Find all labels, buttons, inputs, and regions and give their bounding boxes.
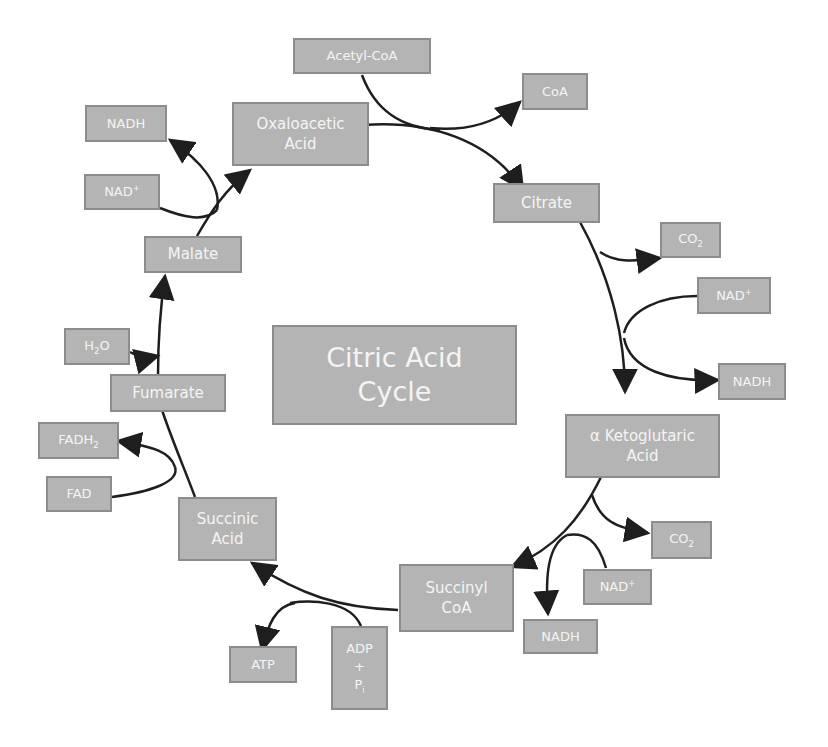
node-succinyl-coa: Succinyl CoA: [399, 564, 514, 632]
molecule-label: CO2: [669, 530, 694, 550]
arrow-nad-in-2: [567, 534, 606, 568]
arrow-adp-in: [290, 602, 361, 626]
arrow-acetylcoa-in: [362, 75, 440, 130]
arrow-succinylCoA-to-succinic: [252, 563, 398, 610]
molecule-label: FADH2: [58, 431, 98, 451]
molecule-fad: FAD: [46, 476, 112, 512]
formula-base: O: [99, 338, 109, 353]
molecule-label: NAD+: [104, 183, 140, 201]
molecule-acetyl-coa: Acetyl-CoA: [293, 38, 431, 74]
node-label: CoA: [442, 598, 472, 618]
formula-subscript: 2: [697, 239, 702, 249]
formula-base: NAD: [600, 579, 629, 594]
arrow-h2o-in: [130, 352, 158, 357]
arrow-atp-out: [262, 603, 295, 650]
node-label: Acid: [212, 529, 244, 549]
arrow-co2-out-1: [600, 252, 660, 260]
formula-base: NAD: [716, 288, 745, 303]
citric-acid-cycle-diagram: Citric Acid Cycle Oxaloacetic Acid Citra…: [0, 0, 828, 747]
molecule-label: +: [354, 658, 365, 676]
molecule-h2o: H2O: [64, 328, 130, 365]
node-label: Malate: [168, 244, 219, 264]
formula-superscript: +: [628, 578, 635, 588]
molecule-co2-2: CO2: [651, 521, 712, 559]
node-alpha-ketoglutaric-acid: α Ketoglutaric Acid: [565, 414, 720, 478]
formula-base: CO: [669, 531, 688, 546]
molecule-label: ATP: [251, 656, 275, 674]
molecule-label: CO2: [678, 230, 703, 250]
node-fumarate: Fumarate: [110, 374, 226, 412]
molecule-label: FAD: [66, 485, 91, 503]
node-succinic-acid: Succinic Acid: [178, 497, 277, 561]
molecule-nad-plus-1: NAD+: [697, 277, 771, 314]
molecule-nadh-3: NADH: [85, 105, 167, 142]
arrow-malate-to-oxaloacetic: [197, 170, 250, 236]
arrow-nad-in-3: [160, 208, 217, 217]
molecule-nad-plus-3: NAD+: [84, 174, 160, 210]
formula-base: FADH: [58, 432, 93, 447]
molecule-coa: CoA: [522, 73, 588, 110]
arrow-fad-in: [112, 467, 176, 497]
node-malate: Malate: [144, 236, 242, 273]
molecule-co2-1: CO2: [660, 222, 721, 258]
formula-subscript: 2: [688, 539, 693, 549]
formula-base: NAD: [104, 184, 133, 199]
arrow-coa-out: [430, 102, 520, 129]
molecule-label: NADH: [541, 628, 579, 646]
formula-base: CO: [678, 231, 697, 246]
arrow-fadh2-out: [118, 441, 175, 467]
molecule-label: Pi: [354, 676, 364, 696]
molecule-atp: ATP: [229, 646, 297, 683]
node-label: Oxaloacetic: [256, 114, 344, 134]
molecule-label: CoA: [542, 83, 568, 101]
cycle-title-line-1: Citric Acid: [326, 341, 462, 375]
molecule-label: Acetyl-CoA: [327, 47, 398, 65]
arrow-citrate-to-ketoglutaric: [580, 222, 625, 392]
formula-subscript: 2: [93, 439, 98, 449]
molecule-label: NADH: [733, 373, 771, 391]
molecule-label: H2O: [84, 337, 109, 357]
molecule-label: NAD+: [716, 287, 752, 305]
molecule-label: NAD+: [600, 578, 636, 596]
arrow-fumarate-to-malate: [158, 276, 165, 376]
molecule-fadh2: FADH2: [38, 422, 119, 459]
arrow-nad-in-1: [624, 296, 697, 333]
arrow-ketoglutaric-to-succinylCoA: [512, 477, 601, 567]
formula-superscript: +: [133, 183, 140, 193]
molecule-label: NADH: [107, 115, 145, 133]
arrow-nadh-out-3: [170, 140, 218, 210]
formula-subscript: i: [362, 684, 364, 694]
arrow-nadh-out-2: [547, 535, 567, 614]
node-label: Succinyl: [425, 578, 487, 598]
molecule-adp-pi: ADP + Pi: [331, 626, 388, 710]
arrow-oxaloacetic-to-citrate: [363, 124, 523, 190]
arrow-succinic-to-fumarate: [162, 410, 195, 497]
formula-superscript: +: [745, 287, 752, 297]
molecule-nad-plus-2: NAD+: [583, 569, 652, 605]
node-label: Acid: [627, 446, 659, 466]
node-label: Fumarate: [132, 383, 204, 403]
cycle-title-line-2: Cycle: [358, 375, 432, 409]
node-label: Citrate: [521, 193, 572, 213]
node-label: Acid: [285, 134, 317, 154]
arrow-nadh-out-1: [624, 338, 718, 380]
node-label: α Ketoglutaric: [590, 426, 695, 446]
molecule-nadh-1: NADH: [718, 363, 786, 400]
formula-base: H: [84, 338, 94, 353]
node-label: Succinic: [197, 509, 259, 529]
arrow-co2-out-2: [592, 495, 648, 533]
node-citrate: Citrate: [493, 183, 600, 223]
molecule-nadh-2: NADH: [523, 619, 598, 654]
cycle-title: Citric Acid Cycle: [272, 325, 517, 425]
molecule-label: ADP: [346, 640, 373, 658]
node-oxaloacetic-acid: Oxaloacetic Acid: [232, 102, 369, 166]
